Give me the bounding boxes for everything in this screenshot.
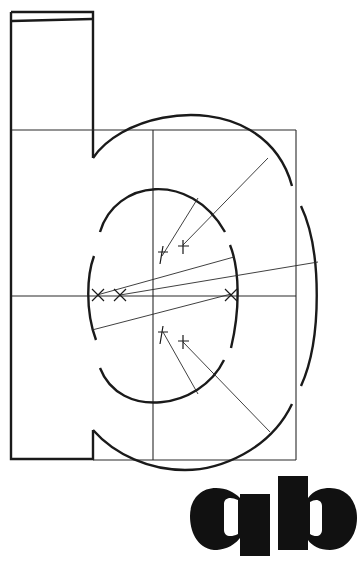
sample-glyphs-qb — [190, 476, 357, 556]
center-marks — [92, 240, 237, 349]
construction-grid — [12, 130, 296, 460]
stem-outline — [11, 12, 93, 459]
letter-b-construction-diagram — [0, 0, 357, 571]
outer-bowl — [93, 115, 317, 470]
